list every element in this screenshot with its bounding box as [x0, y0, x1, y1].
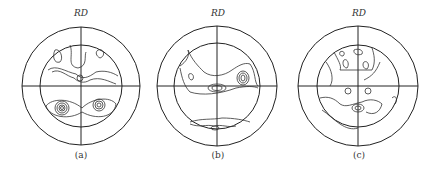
panel-caption: (c): [344, 150, 374, 160]
panel-caption: (b): [203, 150, 233, 160]
pole-figure-b: RD (b): [146, 0, 292, 173]
pole-figure-plot: [292, 0, 438, 173]
pole-figure-c: RD (c): [292, 0, 438, 173]
pole-figure-set: RD (a) RD: [0, 0, 438, 173]
pole-figure-plot: [0, 0, 146, 173]
pole-figure-a: RD (a): [0, 0, 146, 173]
pole-figure-plot: [146, 0, 292, 173]
panel-caption: (a): [66, 150, 96, 160]
